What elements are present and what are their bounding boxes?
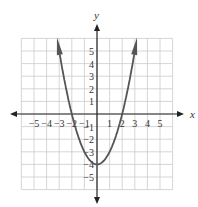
svg-text:−4: −4 (83, 159, 94, 170)
svg-text:3: 3 (89, 71, 94, 82)
y-axis-label: y (93, 9, 99, 21)
svg-text:−4: −4 (41, 118, 52, 129)
x-axis-label: x (189, 108, 195, 120)
svg-text:4: 4 (89, 59, 94, 70)
svg-text:5: 5 (158, 118, 163, 129)
parabola-graph: −5−4−3−2−11234554321−1−2−3−4−5 x y (0, 0, 198, 207)
svg-text:3: 3 (132, 118, 137, 129)
svg-text:1: 1 (107, 118, 112, 129)
svg-text:−1: −1 (83, 122, 94, 133)
svg-text:−3: −3 (54, 118, 65, 129)
svg-text:4: 4 (145, 118, 150, 129)
svg-text:1: 1 (89, 96, 94, 107)
svg-text:−5: −5 (83, 172, 94, 183)
svg-text:−2: −2 (83, 134, 94, 145)
svg-text:2: 2 (89, 84, 94, 95)
svg-text:5: 5 (89, 46, 94, 57)
svg-text:−5: −5 (29, 118, 40, 129)
